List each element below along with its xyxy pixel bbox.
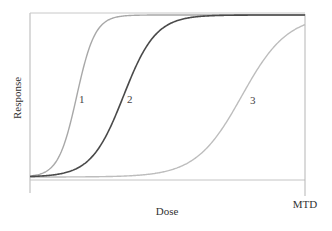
curve-1 (30, 15, 305, 176)
curve-3-label: 3 (250, 94, 256, 106)
curve-2 (30, 15, 305, 177)
dose-response-chart: 1 2 3 Response Dose MTD (0, 0, 332, 231)
curves-group (30, 15, 305, 177)
curve-2-label: 2 (127, 93, 133, 105)
mtd-tick-label: MTD (293, 198, 318, 210)
y-axis-label: Response (11, 77, 23, 119)
x-axis-label: Dose (156, 205, 179, 217)
curve-3 (30, 25, 305, 177)
curve-1-label: 1 (79, 93, 85, 105)
